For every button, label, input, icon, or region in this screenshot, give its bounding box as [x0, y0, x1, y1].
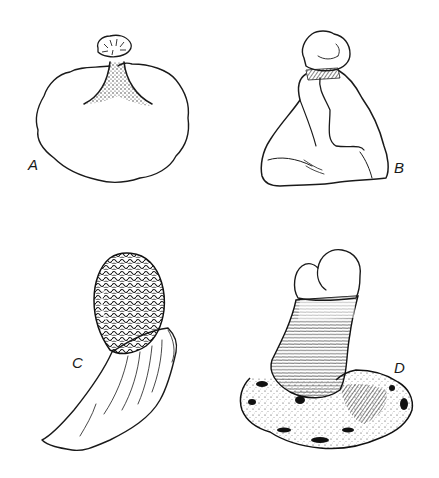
figure-label-c: C	[72, 355, 83, 370]
figure-c-specimen	[42, 253, 177, 450]
figure-b-specimen	[261, 31, 388, 186]
specimen-drawings	[0, 0, 439, 478]
figure-label-b: B	[394, 160, 404, 175]
illustration-plate: A B C D	[0, 0, 439, 478]
figure-a-specimen	[36, 35, 188, 182]
figure-label-d: D	[394, 360, 405, 375]
figure-label-a: A	[28, 157, 38, 172]
figure-d-specimen	[240, 250, 412, 449]
